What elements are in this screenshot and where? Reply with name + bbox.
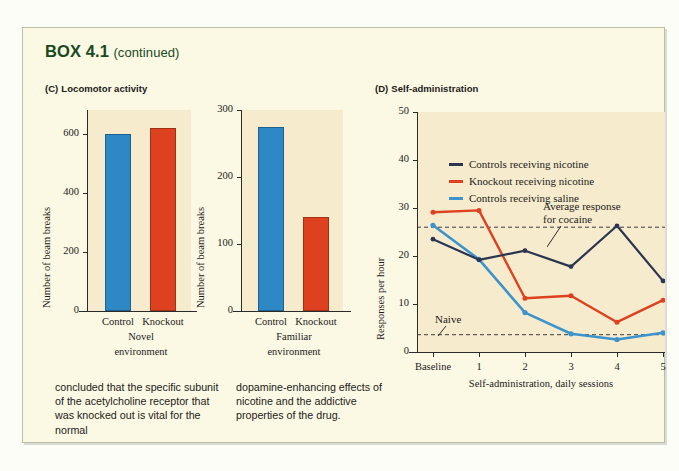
annotation-cocaine-leader — [547, 226, 565, 248]
annotation-naive-leader — [437, 326, 451, 337]
y-tick-label-selfadmin-30: 30 — [379, 201, 409, 212]
legend-item-controls-nicotine: Controls receiving nicotine — [449, 158, 589, 170]
legend-label-knockout-nicotine: Knockout receiving nicotine — [469, 175, 594, 187]
annotation-cocaine-line1: Average response — [543, 200, 621, 213]
chart-self-administration: 0 10 20 30 40 50 Responses per hour Base… — [23, 28, 666, 398]
x-cat-label-1: 1 — [459, 361, 499, 372]
page-root: BOX 4.1 (continued) (C)Locomotor activit… — [0, 0, 679, 471]
legend-swatch-controls-nicotine — [449, 163, 463, 166]
body-text-column-right: dopamine-enhancing effects of nicotine a… — [236, 380, 406, 423]
x-cat-label-3: 3 — [551, 361, 591, 372]
legend-swatch-controls-saline — [449, 197, 463, 200]
textbox-panel: BOX 4.1 (continued) (C)Locomotor activit… — [22, 27, 665, 443]
y-tick-label-selfadmin-0: 0 — [379, 345, 409, 356]
legend-swatch-knockout-nicotine — [449, 180, 463, 183]
body-text-column-left: concluded that the specific subunit of t… — [55, 380, 225, 437]
annotation-cocaine: Average response for cocaine — [543, 200, 621, 226]
x-cat-label-2: 2 — [505, 361, 545, 372]
annotation-naive-line1: Naive — [435, 313, 461, 326]
annotation-naive: Naive — [435, 313, 461, 326]
x-cat-label-baseline: Baseline — [403, 361, 463, 372]
y-axis-title-selfadmin: Responses per hour — [375, 258, 386, 340]
x-cat-label-5: 5 — [643, 361, 679, 372]
legend-label-controls-nicotine: Controls receiving nicotine — [469, 158, 589, 170]
y-tick-label-selfadmin-40: 40 — [379, 153, 409, 164]
annotation-cocaine-line2: for cocaine — [543, 213, 621, 226]
x-axis-title-selfadmin: Self-administration, daily sessions — [417, 378, 665, 389]
y-tick-label-selfadmin-50: 50 — [379, 105, 409, 116]
legend-item-knockout-nicotine: Knockout receiving nicotine — [449, 175, 594, 187]
x-cat-label-4: 4 — [597, 361, 637, 372]
